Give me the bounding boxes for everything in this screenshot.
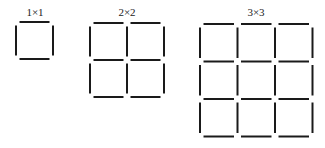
grid-2x2: 2×2	[90, 6, 164, 97]
grid-3x3: 3×3	[200, 6, 313, 137]
grid-label-2x2: 2×2	[118, 6, 135, 18]
matchstick-diagram: 1×1 2×2 3×3	[0, 0, 325, 148]
grid-label-3x3: 3×3	[247, 6, 265, 18]
grid-1x1: 1×1	[16, 6, 53, 59]
grid-label-1x1: 1×1	[26, 6, 43, 18]
